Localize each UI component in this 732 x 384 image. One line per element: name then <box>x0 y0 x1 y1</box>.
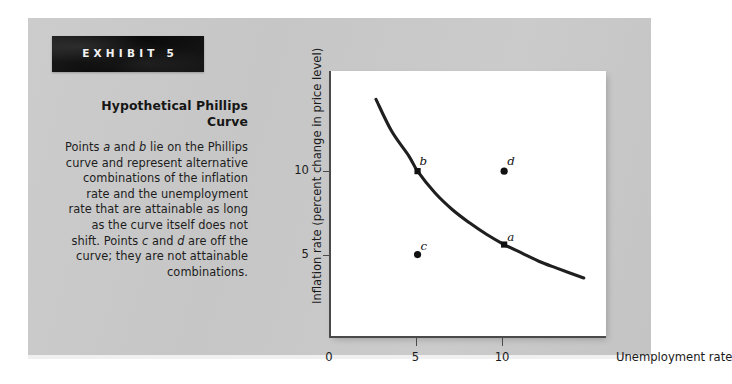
x-tick-mark <box>502 338 503 346</box>
plot-svg <box>331 71 608 338</box>
data-point-b <box>414 168 420 174</box>
y-tick-label: 5 <box>273 247 309 261</box>
point-name-inline: d <box>177 234 184 248</box>
phillips-curve-line <box>376 99 584 278</box>
x-tick-label: 5 <box>401 350 431 364</box>
x-tick-label: 0 <box>314 350 344 364</box>
data-point-d <box>501 168 508 175</box>
point-label-a: a <box>507 230 514 244</box>
y-axis-title: Inflation rate (percent change in price … <box>310 54 324 304</box>
exhibit-title: Hypothetical Phillips Curve <box>62 98 248 130</box>
point-name-inline: a <box>103 140 110 154</box>
point-label-b: b <box>420 154 428 168</box>
x-tick-mark <box>416 338 417 346</box>
exhibit-banner-label: EXHIBIT 5 <box>52 47 204 59</box>
y-tick-label: 10 <box>273 163 309 177</box>
data-point-markers <box>414 168 508 259</box>
y-tick-mark <box>323 171 331 172</box>
phillips-curve-chart: Inflation rate (percent change in price … <box>264 54 664 344</box>
plot-area <box>329 71 606 338</box>
point-name-inline: b <box>139 140 146 154</box>
exhibit-caption: Points a and b lie on the Phillips curve… <box>62 140 248 280</box>
caption-block: Hypothetical Phillips Curve Points a and… <box>62 98 248 280</box>
x-tick-label: 10 <box>487 350 517 364</box>
y-tick-mark <box>323 255 331 256</box>
point-label-d: d <box>507 154 515 168</box>
exhibit-banner: EXHIBIT 5 <box>52 36 204 72</box>
x-axis-title: Unemployment rate <box>616 350 732 364</box>
exhibit-panel: EXHIBIT 5 Hypothetical Phillips Curve Po… <box>28 18 651 355</box>
point-label-c: c <box>421 239 428 253</box>
point-name-inline: c <box>142 234 148 248</box>
